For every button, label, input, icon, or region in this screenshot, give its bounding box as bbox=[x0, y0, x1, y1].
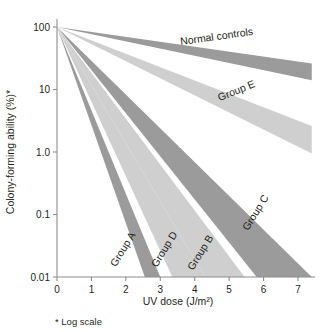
x-tick-label: 2 bbox=[123, 284, 129, 295]
x-tick-label: 4 bbox=[192, 284, 198, 295]
x-tick-label: 7 bbox=[295, 284, 301, 295]
chart-figure: 100101.00.10.0101234567 Normal controlsG… bbox=[0, 0, 326, 332]
log-scale-footnote: * Log scale bbox=[55, 316, 102, 327]
y-tick-label: 10 bbox=[39, 84, 51, 95]
x-tick-label: 6 bbox=[261, 284, 267, 295]
x-tick-label: 3 bbox=[158, 284, 164, 295]
series-label-normal-controls: Normal controls bbox=[179, 25, 253, 47]
data-wedges bbox=[57, 27, 312, 277]
y-tick-label: 1.0 bbox=[36, 147, 50, 158]
y-axis-title: Colony-forming ability (%)* bbox=[4, 90, 16, 214]
y-tick-label: 0.01 bbox=[31, 272, 51, 283]
x-tick-label: 0 bbox=[54, 284, 60, 295]
y-tick-label: 100 bbox=[33, 22, 50, 33]
colony-forming-ability-chart: 100101.00.10.0101234567 Normal controlsG… bbox=[0, 0, 326, 332]
x-axis-title: UV dose (J/m²) bbox=[143, 295, 214, 307]
x-tick-label: 1 bbox=[89, 284, 95, 295]
y-tick-label: 0.1 bbox=[36, 209, 50, 220]
x-tick-label: 5 bbox=[226, 284, 232, 295]
series-label-group-a: Group A bbox=[107, 229, 138, 268]
